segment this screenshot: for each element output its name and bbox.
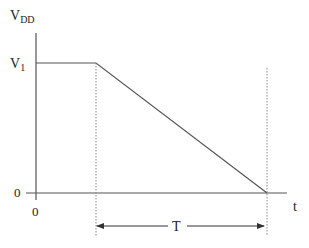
origin-time-label: 0: [32, 204, 39, 219]
voltage-waveform: [36, 63, 267, 193]
waveform-diagram: VDD V1 0 0 t T: [0, 0, 309, 248]
time-axis-label: t: [293, 199, 297, 214]
y-axis-label: VDD: [10, 8, 35, 25]
v1-level-label: V1: [10, 56, 25, 73]
zero-level-label: 0: [14, 185, 21, 200]
interval-label: T: [172, 219, 181, 234]
